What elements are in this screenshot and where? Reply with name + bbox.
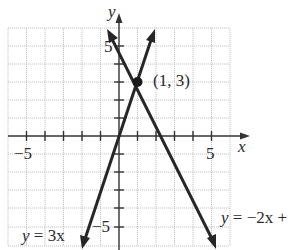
line2-equation-label: y = −2x + [221, 209, 287, 226]
line1-equation-rhs: = 3x [30, 226, 65, 245]
y-tick-label-neg5: −5 [92, 218, 110, 235]
y-axis-label: y [108, 3, 116, 20]
arrowhead-down-icon [207, 234, 216, 249]
intersection-label: (1, 3) [153, 72, 190, 89]
x-axis-label: x [238, 138, 246, 155]
y-tick-label-5: 5 [104, 38, 113, 55]
line1-equation-lhs: y [22, 226, 30, 245]
line-y-equals-3x [80, 29, 155, 249]
intersection-point [133, 77, 143, 87]
line-y-equals-neg2x-plus-5 [107, 29, 216, 249]
line2-equation-lhs: y [221, 208, 229, 227]
line2-equation-rhs: = −2x + [229, 208, 288, 227]
x-tick-label-5: 5 [206, 145, 215, 162]
x-tick-label-neg5: −5 [14, 145, 32, 162]
arrowhead-down-icon [80, 235, 90, 249]
arrowhead-up-icon [146, 29, 155, 43]
line1-equation-label: y = 3x [22, 227, 65, 244]
x-axis [8, 131, 250, 141]
